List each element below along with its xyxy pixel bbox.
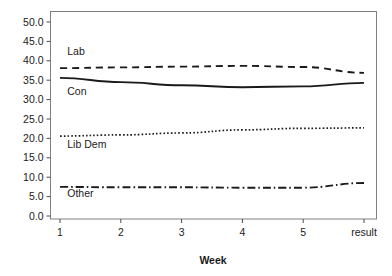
series-label-other: Other — [67, 187, 94, 199]
series-label-lib-dem: Lib Dem — [67, 138, 106, 150]
y-tick-label: 40.0 — [23, 54, 44, 66]
x-tick-label: result — [351, 226, 377, 238]
y-tick-label: 0.0 — [29, 210, 44, 222]
series-label-lab: Lab — [67, 45, 85, 57]
line-chart-figure: 0.05.010.015.020.025.030.035.040.045.050… — [0, 0, 392, 276]
y-tick-label: 15.0 — [23, 151, 44, 163]
x-tick-label: 4 — [239, 226, 245, 238]
y-tick-label: 25.0 — [23, 113, 44, 125]
y-tick-label: 20.0 — [23, 132, 44, 144]
x-tick-label: 3 — [179, 226, 185, 238]
x-axis-title: Week — [199, 254, 226, 266]
y-tick-label: 50.0 — [23, 16, 44, 28]
y-tick-label: 30.0 — [23, 93, 44, 105]
x-tick-label: 5 — [300, 226, 306, 238]
x-tick-label: 2 — [118, 226, 124, 238]
y-tick-label: 45.0 — [23, 35, 44, 47]
chart-canvas: 0.05.010.015.020.025.030.035.040.045.050… — [0, 0, 392, 276]
x-tick-label: 1 — [57, 226, 63, 238]
y-tick-label: 5.0 — [29, 190, 44, 202]
y-tick-label: 10.0 — [23, 171, 44, 183]
y-tick-label: 35.0 — [23, 74, 44, 86]
series-label-con: Con — [67, 85, 86, 97]
